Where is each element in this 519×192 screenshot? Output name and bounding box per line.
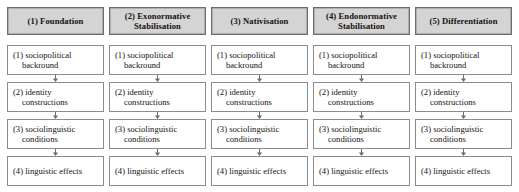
stage-2-4-line1: (4) linguistic effects	[115, 166, 184, 176]
down-arrow-icon	[415, 112, 512, 119]
stage-box-2-3: (3) sociolinguistic conditions	[109, 119, 206, 149]
down-arrow-icon	[313, 149, 410, 156]
down-arrow-icon	[109, 149, 206, 156]
stage-box-3-3: (3) sociolinguistic conditions	[211, 119, 308, 149]
stage-4-1-line2: backround	[319, 60, 377, 70]
stage-2-2-line2: constructions	[115, 97, 170, 107]
stage-1-1-line2: backround	[13, 60, 71, 70]
stage-box-4-3: (3) sociolinguistic conditions	[313, 119, 410, 149]
down-arrow-icon	[211, 149, 308, 156]
stage-box-5-1: (1) sociopolitical backround	[415, 45, 512, 75]
header-gap	[415, 35, 512, 45]
header-gap	[313, 35, 410, 45]
down-arrow-icon	[109, 75, 206, 82]
stage-3-3-line1: (3) sociolinguistic	[217, 124, 279, 134]
phase-header-1-line1: (1) Foundation	[28, 16, 84, 26]
stage-box-2-2: (2) identity constructions	[109, 82, 206, 112]
stage-3-2-line2: constructions	[217, 97, 272, 107]
phase-column-2: (2) Exonormative Stabilisation (1) socio…	[109, 7, 206, 186]
stage-2-1-line1: (1) sociopolitical	[115, 50, 173, 60]
phase-column-1: (1) Foundation (1) sociopolitical backro…	[7, 7, 104, 186]
stage-5-3-line2: conditions	[421, 134, 483, 144]
phase-column-4: (4) Endonormative Stabilisation (1) soci…	[313, 7, 410, 186]
stage-4-1-line1: (1) sociopolitical	[319, 50, 377, 60]
phase-header-4-line2: Stabilisation	[326, 21, 397, 31]
stage-3-1-line1: (1) sociopolitical	[217, 50, 275, 60]
stage-4-3-line1: (3) sociolinguistic	[319, 124, 381, 134]
down-arrow-icon	[313, 112, 410, 119]
stage-3-4-line1: (4) linguistic effects	[217, 166, 286, 176]
phase-header-3: (3) Nativisation	[211, 7, 308, 35]
stage-4-4-line1: (4) linguistic effects	[319, 166, 388, 176]
phase-header-4-line1: (4) Endonormative	[326, 11, 397, 21]
stage-1-4-line1: (4) linguistic effects	[13, 166, 82, 176]
down-arrow-icon	[415, 75, 512, 82]
stage-5-2-line2: constructions	[421, 97, 476, 107]
stage-5-3-line1: (3) sociolinguistic	[421, 124, 483, 134]
stage-box-3-4: (4) linguistic effects	[211, 156, 308, 186]
phase-column-5: (5) Differentiation (1) sociopolitical b…	[415, 7, 512, 186]
stage-list-5: (1) sociopolitical backround (2) identit…	[415, 45, 512, 186]
stage-5-1-line2: backround	[421, 60, 479, 70]
stage-list-2: (1) sociopolitical backround (2) identit…	[109, 45, 206, 186]
stage-4-3-line2: conditions	[319, 134, 381, 144]
stage-box-1-4: (4) linguistic effects	[7, 156, 104, 186]
stage-2-3-line1: (3) sociolinguistic	[115, 124, 177, 134]
phase-header-5: (5) Differentiation	[415, 7, 512, 35]
down-arrow-icon	[7, 149, 104, 156]
stage-box-4-2: (2) identity constructions	[313, 82, 410, 112]
down-arrow-icon	[211, 75, 308, 82]
phase-header-3-line1: (3) Nativisation	[231, 16, 289, 26]
stage-box-5-2: (2) identity constructions	[415, 82, 512, 112]
header-gap	[211, 35, 308, 45]
phase-flow-diagram: (1) Foundation (1) sociopolitical backro…	[0, 0, 519, 192]
stage-box-4-1: (1) sociopolitical backround	[313, 45, 410, 75]
stage-3-2-line1: (2) identity	[217, 87, 255, 97]
phase-header-1: (1) Foundation	[7, 7, 104, 35]
stage-4-2-line1: (2) identity	[319, 87, 357, 97]
stage-3-3-line2: conditions	[217, 134, 279, 144]
stage-5-1-line1: (1) sociopolitical	[421, 50, 479, 60]
stage-box-2-1: (1) sociopolitical backround	[109, 45, 206, 75]
stage-5-4-line1: (4) linguistic effects	[421, 166, 490, 176]
down-arrow-icon	[109, 112, 206, 119]
stage-2-2-line1: (2) identity	[115, 87, 153, 97]
phase-header-2-line2: Stabilisation	[125, 21, 191, 31]
down-arrow-icon	[415, 149, 512, 156]
stage-1-3-line2: conditions	[13, 134, 75, 144]
stage-5-2-line1: (2) identity	[421, 87, 459, 97]
stage-1-3-line1: (3) sociolinguistic	[13, 124, 75, 134]
header-gap	[7, 35, 104, 45]
down-arrow-icon	[211, 112, 308, 119]
stage-box-4-4: (4) linguistic effects	[313, 156, 410, 186]
stage-box-5-4: (4) linguistic effects	[415, 156, 512, 186]
stage-list-1: (1) sociopolitical backround (2) identit…	[7, 45, 104, 186]
stage-1-2-line1: (2) identity	[13, 87, 51, 97]
down-arrow-icon	[7, 75, 104, 82]
stage-box-1-2: (2) identity constructions	[7, 82, 104, 112]
phase-header-4: (4) Endonormative Stabilisation	[313, 7, 410, 35]
stage-1-1-line1: (1) sociopolitical	[13, 50, 71, 60]
phase-header-2-line1: (2) Exonormative	[125, 11, 191, 21]
stage-box-1-1: (1) sociopolitical backround	[7, 45, 104, 75]
stage-box-5-3: (3) sociolinguistic conditions	[415, 119, 512, 149]
stage-box-2-4: (4) linguistic effects	[109, 156, 206, 186]
stage-list-4: (1) sociopolitical backround (2) identit…	[313, 45, 410, 186]
stage-1-2-line2: constructions	[13, 97, 68, 107]
stage-box-3-1: (1) sociopolitical backround	[211, 45, 308, 75]
stage-2-1-line2: backround	[115, 60, 173, 70]
stage-2-3-line2: conditions	[115, 134, 177, 144]
down-arrow-icon	[7, 112, 104, 119]
stage-3-1-line2: backround	[217, 60, 275, 70]
phase-header-5-line1: (5) Differentiation	[429, 16, 497, 26]
stage-box-1-3: (3) sociolinguistic conditions	[7, 119, 104, 149]
phase-column-3: (3) Nativisation (1) sociopolitical back…	[211, 7, 308, 186]
phase-header-2: (2) Exonormative Stabilisation	[109, 7, 206, 35]
header-gap	[109, 35, 206, 45]
stage-list-3: (1) sociopolitical backround (2) identit…	[211, 45, 308, 186]
stage-4-2-line2: constructions	[319, 97, 374, 107]
stage-box-3-2: (2) identity constructions	[211, 82, 308, 112]
down-arrow-icon	[313, 75, 410, 82]
